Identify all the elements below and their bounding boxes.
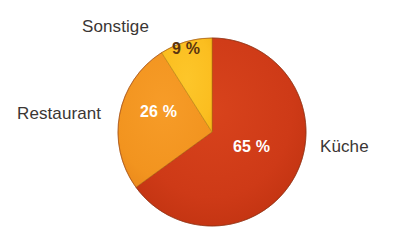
- category-label-sonstige: Sonstige: [82, 17, 149, 37]
- value-label-kueche: 65 %: [233, 138, 270, 156]
- value-label-restaurant: 26 %: [140, 103, 177, 121]
- value-label-sonstige: 9 %: [172, 40, 200, 58]
- pie-chart-figure: Sonstige Restaurant Küche 9 % 26 % 65 %: [0, 0, 397, 246]
- category-label-kueche: Küche: [320, 137, 369, 157]
- category-label-restaurant: Restaurant: [17, 104, 101, 124]
